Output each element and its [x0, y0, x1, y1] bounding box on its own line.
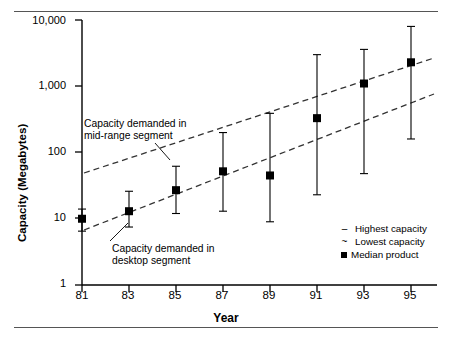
median-product-marker — [313, 114, 321, 122]
y-tick-marks — [75, 20, 82, 285]
x-tick-marks — [82, 285, 411, 292]
median-product-marker — [125, 207, 133, 215]
axis-lines — [82, 20, 437, 285]
trend-line-mid-range — [84, 58, 434, 173]
median-product-marker — [407, 58, 415, 66]
median-product-marker — [78, 215, 86, 223]
plot-area — [0, 0, 452, 339]
data-series-median-product — [78, 26, 415, 231]
annotation-leader-lines — [110, 143, 170, 241]
median-product-marker — [172, 186, 180, 194]
trend-line-desktop — [84, 94, 434, 230]
median-product-marker — [266, 171, 274, 179]
median-product-marker — [360, 80, 368, 88]
median-product-marker — [219, 167, 227, 175]
trend-lines — [84, 58, 434, 230]
chart-figure: Capacity (Megabytes) 10,000 1,000 100 10… — [0, 0, 452, 339]
